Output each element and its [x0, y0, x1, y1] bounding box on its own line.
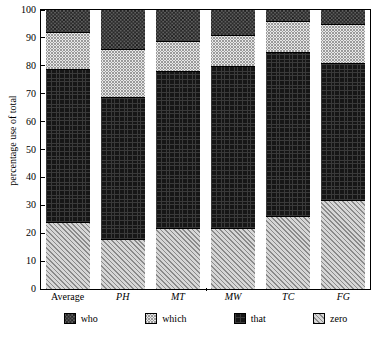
legend-label-that: that	[251, 313, 266, 324]
bar-segment-mw-who[interactable]	[211, 10, 255, 35]
plot-inner: 0102030405060708090100	[41, 10, 370, 289]
bar-mw[interactable]	[211, 10, 255, 289]
bar-segment-mw-zero[interactable]	[211, 228, 255, 289]
bar-segment-ph-which[interactable]	[101, 49, 145, 96]
legend-swatch-who	[64, 313, 76, 324]
bar-group	[41, 10, 370, 289]
bar-segment-tc-who[interactable]	[266, 10, 310, 21]
bar-segment-fg-that[interactable]	[321, 63, 365, 200]
y-tick-mark	[41, 10, 45, 11]
y-tick-20: 20	[26, 228, 41, 238]
y-tick-mark	[41, 205, 45, 206]
y-tick-10: 10	[26, 256, 41, 266]
bar-segment-ph-who[interactable]	[101, 10, 145, 49]
legend-swatch-that	[234, 313, 246, 324]
bar-segment-mt-who[interactable]	[156, 10, 200, 41]
bar-segment-average-which[interactable]	[46, 32, 90, 68]
legend-item-that[interactable]: that	[234, 313, 266, 324]
bar-segment-ph-that[interactable]	[101, 97, 145, 239]
legend-label-who: who	[81, 313, 98, 324]
bar-segment-mw-that[interactable]	[211, 66, 255, 228]
bar-segment-tc-that[interactable]	[266, 52, 310, 217]
y-tick-70: 70	[26, 89, 41, 99]
y-tick-60: 60	[26, 117, 41, 127]
y-tick-mark	[41, 149, 45, 150]
y-tick-mark	[41, 65, 45, 66]
legend-label-zero: zero	[330, 313, 347, 324]
y-tick-40: 40	[26, 172, 41, 182]
bar-segment-mt-zero[interactable]	[156, 228, 200, 289]
legend-item-zero[interactable]: zero	[313, 313, 347, 324]
y-tick-100: 100	[21, 5, 41, 15]
bar-segment-tc-zero[interactable]	[266, 216, 310, 289]
y-tick-30: 30	[26, 200, 41, 210]
y-tick-80: 80	[26, 61, 41, 71]
bar-segment-tc-which[interactable]	[266, 21, 310, 52]
y-axis-title: percentage use of total	[7, 66, 18, 216]
bar-segment-average-that[interactable]	[46, 69, 90, 222]
bar-tc[interactable]	[266, 10, 310, 289]
y-tick-mark	[41, 233, 45, 234]
legend-swatch-which	[145, 313, 157, 324]
x-tick-label-ph: PH	[101, 291, 145, 302]
x-tick-label-average: Average	[46, 291, 90, 302]
y-tick-50: 50	[26, 145, 41, 155]
plot-area: 0102030405060708090100	[40, 9, 371, 290]
legend-swatch-zero	[313, 313, 325, 324]
bar-segment-mt-that[interactable]	[156, 71, 200, 227]
bar-average[interactable]	[46, 10, 90, 289]
x-axis-labels: AveragePHMTMWTCFG	[40, 291, 371, 302]
y-tick-mark	[41, 177, 45, 178]
bar-segment-fg-zero[interactable]	[321, 200, 365, 289]
bar-segment-mt-which[interactable]	[156, 41, 200, 72]
bar-fg[interactable]	[321, 10, 365, 289]
chart-root: percentage use of total 0102030405060708…	[0, 0, 380, 341]
x-tick-label-mt: MT	[156, 291, 200, 302]
bar-segment-average-zero[interactable]	[46, 222, 90, 289]
y-tick-mark	[41, 93, 45, 94]
x-tick-label-mw: MW	[211, 291, 255, 302]
x-tick-mark	[206, 288, 207, 291]
x-tick-label-tc: TC	[266, 291, 310, 302]
y-tick-mark	[41, 121, 45, 122]
bar-segment-fg-who[interactable]	[321, 10, 365, 24]
y-tick-90: 90	[26, 33, 41, 43]
bar-segment-ph-zero[interactable]	[101, 239, 145, 289]
bar-mt[interactable]	[156, 10, 200, 289]
bar-segment-average-who[interactable]	[46, 10, 90, 32]
chart-legend: whowhichthatzero	[40, 313, 371, 324]
legend-label-which: which	[162, 313, 186, 324]
y-tick-mark	[41, 289, 45, 290]
bar-segment-mw-which[interactable]	[211, 35, 255, 66]
legend-item-who[interactable]: who	[64, 313, 98, 324]
y-tick-mark	[41, 37, 45, 38]
y-tick-mark	[41, 261, 45, 262]
bar-segment-fg-which[interactable]	[321, 24, 365, 63]
bar-ph[interactable]	[101, 10, 145, 289]
x-tick-label-fg: FG	[321, 291, 365, 302]
legend-item-which[interactable]: which	[145, 313, 186, 324]
